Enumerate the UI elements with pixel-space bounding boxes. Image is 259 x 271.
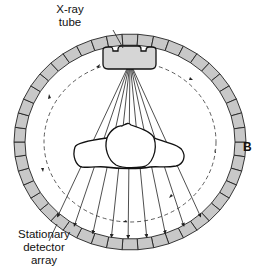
panel-label: B [243,140,252,154]
detector-element [15,155,29,171]
xray-tube-label: X-ray tube [45,3,95,29]
detector-element [106,34,122,47]
detector-label-line1: Stationary [12,228,76,241]
detector-element [151,233,168,247]
detector-element [231,113,245,129]
detector-element [122,34,138,45]
detector-element [14,142,26,157]
patient-cross-section [74,123,184,168]
detector-label-line3: array [12,254,76,267]
detector-element [106,237,122,250]
xray-tube-label-line2: tube [45,16,95,29]
detector-element [137,34,153,47]
xray-tube [103,46,156,69]
detector-element [137,237,153,250]
detector-element [14,127,26,142]
detector-array-label: Stationary detector array [12,228,76,267]
detector-label-line2: detector [12,241,76,254]
xray-tube-label-line1: X-ray [45,3,95,16]
detector-element [122,239,138,250]
